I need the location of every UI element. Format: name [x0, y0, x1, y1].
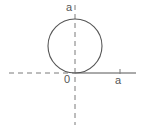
label-origin: 0	[64, 74, 70, 85]
label-a-top: a	[66, 2, 72, 13]
geometry-figure: a 0 a	[0, 0, 143, 129]
figure-canvas	[0, 0, 143, 129]
label-a-axis: a	[115, 75, 121, 86]
